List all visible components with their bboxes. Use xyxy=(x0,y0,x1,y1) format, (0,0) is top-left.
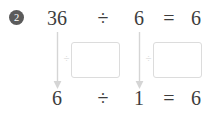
bottom-equation-quotient: 6 xyxy=(180,86,212,110)
step-1-answer-box[interactable] xyxy=(71,42,120,78)
bottom-equation-equals-symbol: = xyxy=(156,86,182,110)
top-equation-dividend: 36 xyxy=(30,6,84,30)
step-2-answer-box[interactable] xyxy=(153,42,202,78)
bottom-equation-divisor: 1 xyxy=(120,86,158,110)
top-equation-divide-symbol: ÷ xyxy=(84,6,122,30)
problem-number-badge: 2 xyxy=(9,10,24,25)
top-equation-divisor: 6 xyxy=(120,6,158,30)
division-worksheet-problem: 2 36 ÷ 6 = 6 ÷ ÷ 6 ÷ 1 = 6 xyxy=(0,0,217,115)
bottom-equation-dividend: 6 xyxy=(30,86,84,110)
top-equation-quotient: 6 xyxy=(180,6,212,30)
bottom-equation-divide-symbol: ÷ xyxy=(84,86,122,110)
top-equation-equals-symbol: = xyxy=(156,6,182,30)
